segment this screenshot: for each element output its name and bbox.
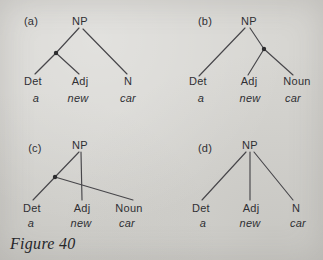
scanned-figure-page: (a) NP Det Adj N a new car (b) NP Det Ad… bbox=[0, 0, 323, 260]
word-a-1: a bbox=[33, 92, 39, 104]
node-cat-d-det: Det bbox=[192, 202, 210, 214]
node-cat-d-adj: Adj bbox=[243, 202, 260, 214]
panel-letter-c: (c) bbox=[28, 142, 42, 154]
node-cat-c-adj: Adj bbox=[74, 202, 91, 214]
panel-letter-d: (d) bbox=[198, 142, 212, 154]
node-root-b: NP bbox=[241, 15, 257, 27]
edge-a-dot-det bbox=[35, 53, 56, 74]
word-c-3: car bbox=[119, 217, 135, 229]
edge-a-np-dot bbox=[56, 28, 79, 53]
tree-branch-lines bbox=[0, 0, 323, 260]
node-cat-a-det: Det bbox=[24, 75, 42, 87]
node-cat-c-det: Det bbox=[23, 202, 41, 214]
edge-d-np-n bbox=[254, 152, 293, 200]
word-a-2: new bbox=[68, 92, 89, 104]
figure-caption: Figure 40 bbox=[10, 235, 76, 253]
edge-b-np-dot bbox=[250, 28, 264, 49]
node-cat-d-n: N bbox=[292, 202, 300, 214]
word-c-1: a bbox=[28, 217, 34, 229]
word-d-3: car bbox=[290, 217, 306, 229]
word-d-2: new bbox=[240, 217, 261, 229]
node-root-d: NP bbox=[242, 139, 258, 151]
word-b-1: a bbox=[198, 92, 204, 104]
node-dot-a bbox=[54, 51, 58, 55]
edge-c-np-adj bbox=[81, 152, 82, 200]
node-cat-b-det: Det bbox=[189, 75, 207, 87]
node-cat-a-n: N bbox=[124, 75, 132, 87]
node-root-a: NP bbox=[72, 15, 88, 27]
word-b-3: car bbox=[285, 92, 301, 104]
word-a-3: car bbox=[120, 92, 136, 104]
node-dot-b bbox=[262, 47, 266, 51]
edge-b-np-det bbox=[199, 28, 245, 76]
edge-d-np-det bbox=[202, 152, 246, 200]
node-root-c: NP bbox=[72, 139, 88, 151]
node-cat-c-noun: Noun bbox=[115, 202, 142, 214]
edge-b-dot-noun bbox=[264, 49, 293, 75]
panel-letter-a: (a) bbox=[24, 15, 38, 27]
node-cat-b-noun: Noun bbox=[283, 75, 310, 87]
word-c-2: new bbox=[71, 217, 92, 229]
edge-a-dot-adj bbox=[56, 53, 79, 74]
node-dot-c bbox=[53, 175, 57, 179]
edge-c-dot-noun bbox=[55, 177, 133, 200]
word-b-2: new bbox=[240, 92, 261, 104]
edge-a-np-n bbox=[83, 29, 127, 74]
edge-b-dot-adj bbox=[248, 49, 264, 75]
word-d-1: a bbox=[200, 217, 206, 229]
node-cat-a-adj: Adj bbox=[72, 75, 89, 87]
panel-letter-b: (b) bbox=[198, 15, 212, 27]
node-cat-b-adj: Adj bbox=[241, 75, 258, 87]
